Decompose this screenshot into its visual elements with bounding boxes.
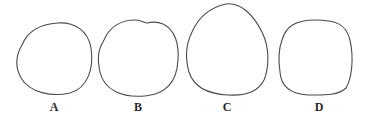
shape-d-label: D — [309, 100, 329, 114]
shape-a-label: A — [44, 100, 64, 114]
shape-c-outline — [187, 4, 268, 95]
figure-canvas: A B C D — [0, 0, 370, 118]
shape-a-outline — [17, 23, 92, 95]
shape-b-outline — [98, 20, 178, 96]
shape-c-label: C — [217, 100, 237, 114]
shape-b-label: B — [128, 100, 148, 114]
shape-d-outline — [279, 20, 352, 95]
